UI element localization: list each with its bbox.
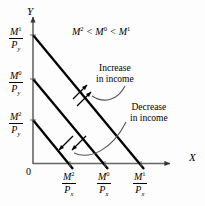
x-intercept-m1-denominator: Px bbox=[133, 184, 147, 198]
y-intercept-m1-denominator: Py bbox=[9, 39, 23, 53]
budget-line-m0 bbox=[33, 79, 108, 169]
increase-arrow-group bbox=[73, 85, 125, 106]
budget-line-figure: Y X 0 M2 < M0 < M1 M1 Py M0 Py M2 Py M2 … bbox=[0, 0, 205, 206]
x-axis-label: X bbox=[189, 152, 196, 163]
inequality-rel2: < bbox=[109, 26, 116, 37]
inequality-m1-sup: 1 bbox=[127, 25, 130, 32]
inequality-m2-sup: 2 bbox=[80, 25, 83, 32]
y-intercept-label-m1: M1 Py bbox=[9, 26, 23, 53]
x-intercept-m2-denominator: Px bbox=[62, 184, 76, 198]
inequality-m0: M bbox=[95, 26, 103, 37]
x-intercept-label-m2: M2 Px bbox=[62, 171, 76, 198]
x-intercept-label-m0: M0 Px bbox=[97, 171, 111, 198]
increase-in-income-annotation: Increase in income bbox=[96, 63, 134, 85]
x-intercept-label-m1: M1 Px bbox=[133, 171, 147, 198]
inequality-m0-sup: 0 bbox=[104, 25, 107, 32]
y-intercept-m1-numerator: M1 bbox=[9, 26, 23, 39]
income-inequality-text: M2 < M0 < M1 bbox=[72, 26, 130, 37]
increase-in-income-line2: in income bbox=[96, 74, 134, 85]
x-intercept-m2-numerator: M2 bbox=[62, 171, 76, 184]
inequality-m1: M bbox=[119, 26, 127, 37]
y-intercept-label-m0: M0 Py bbox=[9, 70, 23, 97]
y-intercept-m0-denominator: Py bbox=[9, 83, 23, 97]
y-intercept-m2-denominator: Py bbox=[9, 124, 23, 138]
budget-line-m2 bbox=[33, 120, 73, 169]
y-axis-label: Y bbox=[27, 6, 33, 17]
x-intercept-m1-numerator: M1 bbox=[133, 171, 147, 184]
increase-in-income-line1: Increase bbox=[96, 63, 134, 74]
origin-label: 0 bbox=[26, 167, 31, 177]
inequality-rel1: < bbox=[86, 26, 93, 37]
budget-line-m1 bbox=[33, 35, 144, 169]
decrease-in-income-line1: Decrease bbox=[130, 102, 168, 113]
x-intercept-m0-denominator: Px bbox=[97, 184, 111, 198]
decrease-in-income-annotation: Decrease in income bbox=[130, 102, 168, 124]
y-intercept-m2-numerator: M2 bbox=[9, 111, 23, 124]
y-intercept-label-m2: M2 Py bbox=[9, 111, 23, 138]
y-intercept-m0-numerator: M0 bbox=[9, 70, 23, 83]
decrease-in-income-line2: in income bbox=[130, 113, 168, 124]
x-intercept-m0-numerator: M0 bbox=[97, 171, 111, 184]
